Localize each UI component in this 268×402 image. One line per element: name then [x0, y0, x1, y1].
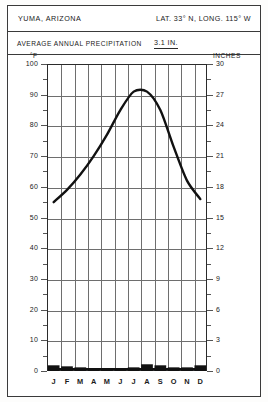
- right-tick-label: 24: [216, 121, 242, 128]
- left-tick-label: 100: [12, 60, 38, 67]
- right-tick-mark-minor: [207, 264, 211, 265]
- left-tick-label: 20: [12, 306, 38, 313]
- left-tick-label: 10: [12, 336, 38, 343]
- left-tick-label: 60: [12, 183, 38, 190]
- left-tick-label: 90: [12, 91, 38, 98]
- right-tick-label: 0: [216, 367, 242, 374]
- month-label: S: [153, 377, 167, 386]
- right-tick-label: 12: [216, 244, 242, 251]
- right-tick-mark-minor: [207, 110, 211, 111]
- right-tick-mark: [207, 95, 213, 96]
- month-label: J: [127, 377, 141, 386]
- temperature-curve: [54, 90, 201, 202]
- right-tick-label: 3: [216, 336, 242, 343]
- precipitation-bar: [101, 369, 113, 371]
- right-tick-label: 9: [216, 275, 242, 282]
- page-title: YUMA, ARIZONA: [18, 14, 81, 23]
- right-tick-mark: [207, 279, 213, 280]
- precipitation-bar: [61, 366, 73, 371]
- month-label: A: [140, 377, 154, 386]
- month-label: M: [73, 377, 87, 386]
- right-tick-mark: [207, 64, 213, 65]
- header-row-location: YUMA, ARIZONA LAT. 33° N, LONG. 115° W: [8, 6, 260, 32]
- right-tick-mark: [207, 125, 213, 126]
- coordinates-label: LAT. 33° N, LONG. 115° W: [156, 14, 251, 23]
- right-tick-label: 6: [216, 306, 242, 313]
- right-tick-mark-minor: [207, 233, 211, 234]
- month-label: D: [193, 377, 207, 386]
- right-tick-label: 21: [216, 152, 242, 159]
- left-tick-label: 30: [12, 275, 38, 282]
- right-tick-mark: [207, 310, 213, 311]
- right-tick-label: 15: [216, 214, 242, 221]
- right-tick-mark-minor: [207, 202, 211, 203]
- month-label: F: [60, 377, 74, 386]
- right-tick-mark: [207, 340, 213, 341]
- right-axis-caption: INCHES: [213, 52, 241, 59]
- precipitation-bar: [88, 368, 100, 371]
- precipitation-bar: [128, 367, 140, 371]
- month-label: A: [87, 377, 101, 386]
- left-tick-label: 50: [12, 214, 38, 221]
- left-tick-label: 0: [12, 367, 38, 374]
- precipitation-bar: [154, 365, 166, 371]
- left-tick-label: 40: [12, 244, 38, 251]
- chart-data-overlay: [47, 64, 207, 371]
- right-tick-mark: [207, 156, 213, 157]
- precipitation-bar: [74, 367, 86, 371]
- precipitation-bar: [181, 367, 193, 371]
- left-tick-label: 70: [12, 152, 38, 159]
- month-label: J: [113, 377, 127, 386]
- right-tick-mark-minor: [207, 141, 211, 142]
- month-label: O: [167, 377, 181, 386]
- right-tick-mark-minor: [207, 171, 211, 172]
- right-tick-mark-minor: [207, 356, 211, 357]
- left-tick-label: 80: [12, 121, 38, 128]
- precipitation-bar: [194, 365, 206, 371]
- right-tick-mark: [207, 371, 213, 372]
- right-tick-mark: [207, 187, 213, 188]
- left-tick-mark: [41, 371, 47, 372]
- month-label: J: [47, 377, 61, 386]
- left-axis-caption: °F: [30, 52, 37, 59]
- precipitation-bar: [141, 364, 153, 371]
- right-tick-mark: [207, 248, 213, 249]
- precipitation-bar: [48, 365, 60, 371]
- right-tick-mark-minor: [207, 79, 211, 80]
- right-tick-mark-minor: [207, 294, 211, 295]
- right-tick-mark-minor: [207, 325, 211, 326]
- right-tick-label: 30: [216, 60, 242, 67]
- precipitation-value: 3.1 IN.: [154, 38, 178, 49]
- month-label: N: [180, 377, 194, 386]
- right-tick-mark: [207, 218, 213, 219]
- precipitation-bar: [168, 367, 180, 371]
- precipitation-bar: [114, 369, 126, 371]
- precipitation-label: AVERAGE ANNUAL PRECIPITATION: [17, 40, 142, 47]
- right-tick-label: 18: [216, 183, 242, 190]
- month-label: M: [100, 377, 114, 386]
- right-tick-label: 27: [216, 91, 242, 98]
- climograph-page: YUMA, ARIZONA LAT. 33° N, LONG. 115° W A…: [0, 0, 268, 402]
